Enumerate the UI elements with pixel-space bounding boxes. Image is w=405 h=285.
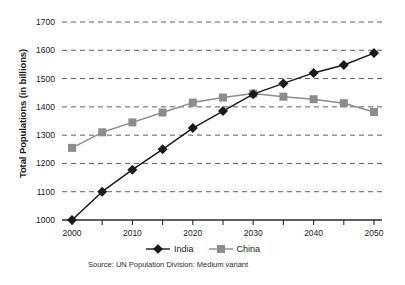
legend-item-china[interactable]: China: [208, 243, 261, 255]
y-tick-label: 1400: [36, 102, 55, 112]
x-tick-label: 2000: [63, 228, 82, 238]
x-axis-tick-labels: 200020102020203020402050: [63, 228, 384, 238]
data-point-india: [339, 60, 349, 70]
legend-item-india[interactable]: India: [145, 243, 194, 255]
data-point-india: [278, 78, 288, 88]
y-tick-label: 1500: [36, 74, 55, 84]
data-point-china: [310, 95, 318, 103]
y-tick-label: 1100: [37, 187, 56, 197]
data-point-china: [340, 99, 348, 107]
data-point-china: [219, 94, 227, 102]
legend-label-china: China: [237, 245, 261, 254]
y-tick-label: 1600: [36, 45, 55, 55]
y-tick-label: 1000: [36, 215, 55, 225]
series-line-china: [72, 94, 374, 148]
x-tick-label: 2040: [304, 228, 323, 238]
data-series: [67, 48, 379, 225]
data-point-china: [98, 128, 106, 136]
x-tick-label: 2030: [244, 228, 263, 238]
x-tick-label: 2020: [183, 228, 202, 238]
legend-label-india: India: [174, 245, 194, 254]
data-point-india: [158, 144, 168, 154]
data-point-india: [127, 165, 137, 175]
y-axis-tick-labels: 10001100120013001400150016001700: [36, 17, 55, 225]
data-point-india: [188, 123, 198, 133]
x-axis: [62, 220, 382, 225]
data-point-china: [189, 99, 197, 107]
y-tick-label: 1700: [36, 17, 55, 27]
source-note: Source: UN Population Division: Medium v…: [88, 260, 248, 269]
data-point-india: [369, 48, 379, 58]
population-line-chart: Total Populations (in billions) 10001100…: [0, 0, 405, 285]
data-point-china: [159, 109, 167, 117]
y-tick-label: 1200: [36, 158, 55, 168]
plot-area: 10001100120013001400150016001700 2000201…: [0, 0, 405, 240]
diamond-marker-icon: [145, 243, 171, 255]
data-point-india: [309, 68, 319, 78]
data-point-india: [218, 106, 228, 116]
y-tick-label: 1300: [36, 130, 55, 140]
x-tick-label: 2010: [123, 228, 142, 238]
data-point-china: [68, 144, 76, 152]
data-point-china: [128, 118, 136, 126]
x-tick-label: 2050: [365, 228, 384, 238]
gridlines: [62, 22, 382, 192]
chart-legend: India China: [0, 243, 405, 255]
data-point-china: [279, 93, 287, 101]
square-marker-icon: [208, 243, 234, 255]
data-point-china: [370, 108, 378, 116]
